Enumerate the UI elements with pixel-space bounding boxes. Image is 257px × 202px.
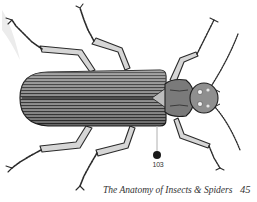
callout-dot	[153, 151, 161, 159]
running-title: The Anatomy of Insects & Spiders	[103, 185, 232, 195]
beetle-elytra	[20, 70, 166, 126]
book-page: 103 The Anatomy of Insects & Spiders 45	[0, 0, 257, 202]
paper-smudge	[2, 10, 20, 60]
callout-number: 103	[148, 161, 168, 168]
page-number: 45	[240, 184, 251, 195]
beetle-illustration	[0, 0, 257, 202]
